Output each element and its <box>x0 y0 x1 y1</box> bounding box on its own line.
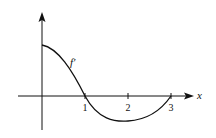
x-tick-label-3: 3 <box>169 102 174 113</box>
curve-label: f′ <box>70 56 76 68</box>
chart: 1 2 3 x f′ <box>0 0 216 138</box>
f-prime-curve <box>42 45 171 121</box>
x-tick-label-2: 2 <box>126 102 131 113</box>
x-axis-label: x <box>196 89 202 101</box>
x-tick-label-1: 1 <box>83 102 88 113</box>
